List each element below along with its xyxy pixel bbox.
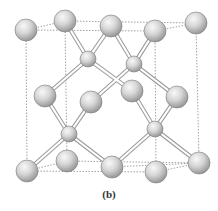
- atom-interior-2: [126, 56, 142, 72]
- atom-bottom-front-right: [145, 161, 167, 183]
- atom-interior-3: [61, 126, 77, 142]
- diamond-cubic-diagram: [0, 0, 218, 211]
- atom-bottom-back-left: [56, 150, 78, 172]
- atom-interior-1: [80, 51, 96, 67]
- atom-top-middle: [100, 15, 122, 37]
- atom-top-front-right: [144, 20, 166, 42]
- atom-bottom-back-right: [188, 152, 210, 174]
- figure-caption: (b): [0, 188, 218, 200]
- atom-interior-4: [147, 121, 163, 137]
- atom-bottom-front-left: [16, 160, 38, 182]
- atom-mid-left: [34, 85, 56, 107]
- atom-mid-center: [80, 91, 102, 113]
- atom-bottom-middle: [101, 156, 123, 178]
- atom-mid-right-center: [121, 80, 143, 102]
- atom-top-back-right: [185, 12, 207, 34]
- atom-top-back-left: [54, 10, 76, 32]
- atom-top-front-left: [15, 19, 37, 41]
- atom-mid-right: [166, 86, 188, 108]
- interior-atoms: [61, 51, 163, 142]
